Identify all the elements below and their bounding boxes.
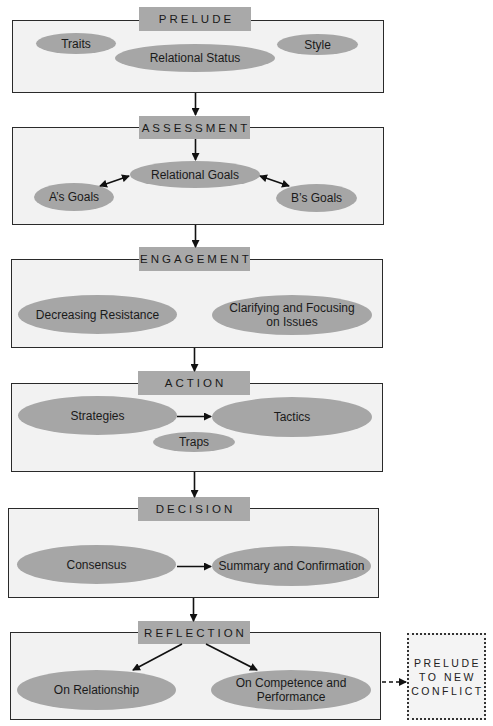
stage-reflection-title: REFLECTION xyxy=(138,621,250,644)
stage-engagement-title: ENGAGEMENT xyxy=(139,247,250,271)
next-line-2: TO NEW xyxy=(419,670,476,684)
node-consensus: Consensus xyxy=(17,545,176,584)
node-on-relationship: On Relationship xyxy=(17,670,176,710)
node-decreasing-resistance: Decreasing Resistance xyxy=(18,295,177,334)
node-summary-confirmation: Summary and Confirmation xyxy=(212,546,371,586)
stage-decision-title: DECISION xyxy=(138,497,250,521)
stage-assessment-title: ASSESSMENT xyxy=(139,116,250,139)
node-style: Style xyxy=(277,34,358,55)
stage-action-title: ACTION xyxy=(138,371,250,395)
connector-arrows xyxy=(0,0,493,726)
next-line-3: CONFLICT xyxy=(411,684,484,698)
next-line-1: PRELUDE xyxy=(414,656,481,670)
node-clarifying-line-2: on Issues xyxy=(266,315,317,329)
node-relational-goals: Relational Goals xyxy=(130,161,260,188)
node-tactics: Tactics xyxy=(212,397,372,437)
node-b-goals: B’s Goals xyxy=(276,184,357,212)
node-traits: Traits xyxy=(36,33,116,54)
prelude-to-new-conflict-box: PRELUDE TO NEW CONFLICT xyxy=(407,633,486,720)
node-on-competence-performance: On Competence and Performance xyxy=(211,670,371,710)
conflict-process-diagram: PRELUDE Traits Relational Status Style A… xyxy=(0,0,493,726)
node-relational-status: Relational Status xyxy=(115,44,275,72)
node-strategies: Strategies xyxy=(18,396,177,435)
stage-prelude-title: PRELUDE xyxy=(139,7,251,31)
node-competence-line-2: Performance xyxy=(257,690,326,704)
node-clarifying-focusing: Clarifying and Focusing on Issues xyxy=(212,295,372,335)
node-a-goals: A’s Goals xyxy=(34,183,114,211)
node-traps: Traps xyxy=(153,432,235,452)
node-competence-line-1: On Competence and xyxy=(236,676,347,690)
node-clarifying-line-1: Clarifying and Focusing xyxy=(229,301,354,315)
